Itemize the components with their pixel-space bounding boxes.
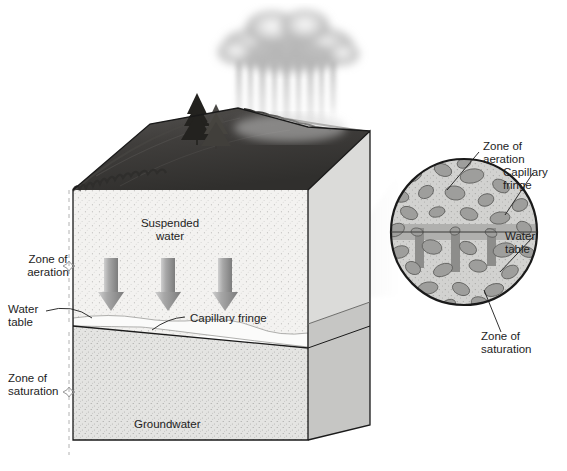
- label-capillary-fringe-main: Capillary fringe: [190, 312, 267, 325]
- label-inset-capillary-fringe: Capillary fringe: [503, 166, 548, 192]
- label-inset-water-table: Water table: [505, 230, 535, 256]
- groundwater-diagram-artwork: [0, 0, 567, 471]
- label-zone-of-saturation: Zone of saturation: [8, 372, 104, 398]
- label-groundwater: Groundwater: [134, 418, 200, 431]
- figure-root: Zone of aeration Water table Zone of sat…: [0, 0, 567, 471]
- cloud-icon: [218, 10, 359, 72]
- label-zone-of-aeration: Zone of aeration: [6, 253, 90, 279]
- label-suspended-water: Suspended water: [124, 217, 216, 243]
- block-right-face-saturation: [308, 302, 370, 440]
- label-inset-zone-of-aeration: Zone of aeration: [483, 140, 525, 166]
- label-inset-zone-of-saturation: Zone of saturation: [481, 330, 532, 356]
- label-water-table: Water table: [8, 303, 78, 329]
